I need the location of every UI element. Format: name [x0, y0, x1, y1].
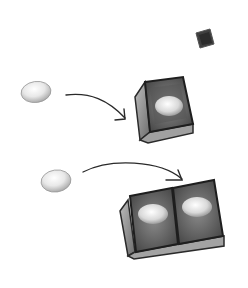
small-box-icon [196, 29, 214, 48]
egg-icon [20, 80, 53, 105]
egg-icon [40, 168, 73, 194]
arrow-icon [66, 94, 125, 120]
arrow-icon [83, 163, 182, 180]
double-box-with-eggs-icon [120, 180, 224, 259]
box-with-egg-icon [135, 77, 193, 143]
egg-box-diagram [0, 0, 248, 288]
